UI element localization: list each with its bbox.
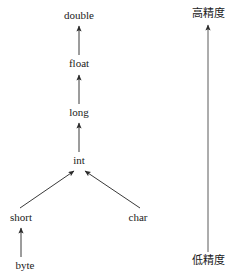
edge-char-to-int (85, 171, 140, 208)
diagram-arrows (0, 0, 233, 275)
node-char: char (112, 211, 164, 223)
axis-label-low-precision: 低精度 (182, 254, 233, 267)
node-long: long (51, 106, 107, 118)
edge-short-to-int (20, 171, 74, 208)
node-short: short (0, 211, 47, 223)
axis-label-high-precision: 高精度 (182, 7, 233, 20)
node-float: float (51, 57, 107, 69)
node-int: int (51, 154, 107, 166)
diagram-canvas: double float long int short char byte 高精… (0, 0, 233, 275)
node-double: double (51, 9, 107, 21)
node-byte: byte (0, 259, 51, 271)
